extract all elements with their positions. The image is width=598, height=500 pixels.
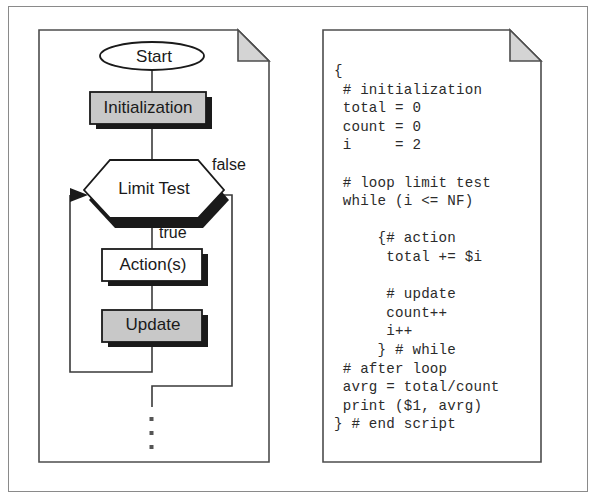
node-actions-shape [102,249,202,281]
continuation-dots-icon [150,417,154,449]
page-fold-icon [510,30,541,61]
node-limit-test-shape [84,160,224,218]
node-initialization-shape [90,92,206,124]
flowchart-graphics [38,29,270,463]
figure-root: Start Initialization Limit Test Action(s… [0,0,598,500]
awk-script-text: { # initialization total = 0 count = 0 i… [334,62,549,434]
node-start-shape [100,42,204,70]
node-update-shape [102,310,202,342]
